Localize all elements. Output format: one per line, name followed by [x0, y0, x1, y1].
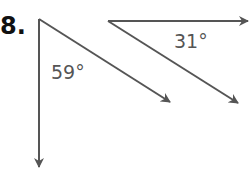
angle-label-59: 59° — [51, 61, 85, 83]
angle-label-31: 31° — [174, 30, 208, 52]
angle-59: 59° — [39, 19, 170, 167]
angle-31: 31° — [108, 21, 248, 103]
angles-figure: 59° 31° — [0, 0, 249, 169]
ray-diagonal — [108, 21, 238, 103]
